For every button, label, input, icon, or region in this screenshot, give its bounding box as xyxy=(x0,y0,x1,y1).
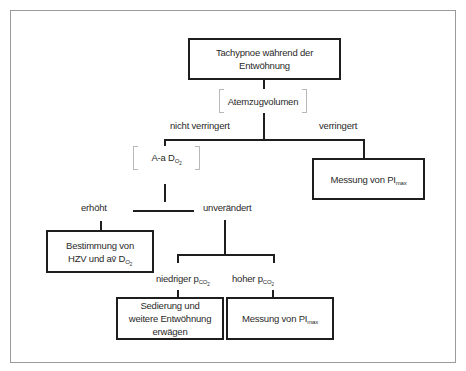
connector-branch2-horizontal xyxy=(133,210,194,212)
connector-test1-down xyxy=(263,113,265,140)
connector-low-pco2-down xyxy=(177,290,179,297)
root-node-tachypnea: Tachypnoe während der Entwöhnung xyxy=(188,38,341,80)
connector-root-to-test1 xyxy=(263,80,265,89)
test-node-tidal-volume: Atemzugvolumen xyxy=(219,89,307,113)
connector-branch2-left-down xyxy=(100,221,102,230)
branch-label-not-reduced: nicht verringert xyxy=(170,120,230,131)
branch-label-reduced: verringert xyxy=(319,120,357,131)
branch-label-high-pco2: hoher pCO2 xyxy=(232,273,274,285)
branch-label-low-pco2: niedriger pCO2 xyxy=(156,273,210,285)
result-node-line1: Sedierung und xyxy=(140,299,199,312)
result-node-line2: weitere Entwöhnung xyxy=(129,312,212,325)
connector-branch1-right-down xyxy=(363,139,365,158)
result-node-line1: Bestimmung von xyxy=(66,239,134,252)
result-node-label: Messung von PI xyxy=(330,174,395,185)
connector-branch2-right-down xyxy=(224,220,226,255)
result-node-measure-pimax-2: Messung von PImax xyxy=(226,297,334,340)
connector-branch3-right-up xyxy=(273,254,275,263)
connector-high-pco2-down xyxy=(272,290,274,297)
test-node-label: A-a D xyxy=(151,152,174,163)
test-node-label: Atemzugvolumen xyxy=(228,96,299,107)
result-node-label: Messung von PI xyxy=(242,313,307,324)
result-node-sedation: Sedierung und weitere Entwöhnung erwägen xyxy=(116,297,224,340)
connector-branch1-left-down xyxy=(164,139,166,146)
connector-test2-down xyxy=(164,184,166,202)
result-node-line2: HZV und av̄ D xyxy=(68,253,125,264)
result-node-determine-cardiac-output: Bestimmung von HZV und av̄ DO2 xyxy=(46,230,154,273)
result-node-measure-pimax: Messung von PImax xyxy=(312,158,425,200)
test-node-a-a-do2: A-a DO2 xyxy=(133,146,200,170)
result-node-line3: erwägen xyxy=(152,325,187,338)
connector-branch1-horizontal xyxy=(164,139,365,141)
connector-branch3-left-up xyxy=(177,254,179,263)
connector-branch3-horizontal xyxy=(177,254,274,256)
root-node-label: Tachypnoe während der Entwöhnung xyxy=(190,46,339,72)
branch-label-unchanged: unverändert xyxy=(203,202,252,213)
branch-label-increased: erhöht xyxy=(81,202,107,213)
